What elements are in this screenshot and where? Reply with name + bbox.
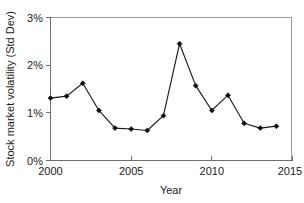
series-marker-point xyxy=(177,41,182,46)
x-tick-label-2000: 2000 xyxy=(38,165,62,177)
x-tick-label-2010: 2010 xyxy=(200,165,224,177)
series-marker-point xyxy=(274,124,279,129)
chart-figure: 0% 1% 2% 3% 2000 2005 2010 2015 Year Sto… xyxy=(0,0,304,203)
series-marker-point xyxy=(258,126,263,131)
x-axis-ticks xyxy=(51,156,293,161)
y-tick-label-2: 2% xyxy=(27,59,43,71)
y-tick-label-3: 3% xyxy=(27,12,43,24)
y-tick-label-1: 1% xyxy=(27,107,43,119)
x-axis-title: Year xyxy=(160,184,183,196)
y-axis-title: Stock market volatility (Std Dev) xyxy=(4,11,16,167)
series-marker-point xyxy=(242,121,247,126)
x-axis-tick-labels: 2000 2005 2010 2015 xyxy=(38,165,302,177)
y-axis-ticks xyxy=(46,18,51,161)
line-chart-canvas: 0% 1% 2% 3% 2000 2005 2010 2015 Year Sto… xyxy=(0,0,304,203)
data-series-group xyxy=(48,41,279,133)
y-axis-tick-labels: 0% 1% 2% 3% xyxy=(27,12,43,167)
series-marker-point xyxy=(129,127,134,132)
x-tick-label-2015: 2015 xyxy=(278,165,302,177)
series-markers xyxy=(48,41,279,133)
series-marker-point xyxy=(48,96,53,101)
x-tick-label-2005: 2005 xyxy=(119,165,143,177)
